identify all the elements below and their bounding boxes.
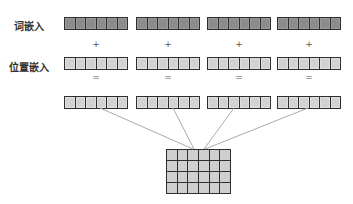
connector-lines <box>0 0 353 204</box>
connector-line-2 <box>173 108 194 149</box>
connector-line-3 <box>204 108 234 149</box>
connector-line-1 <box>100 108 193 149</box>
connector-line-4 <box>205 108 308 149</box>
